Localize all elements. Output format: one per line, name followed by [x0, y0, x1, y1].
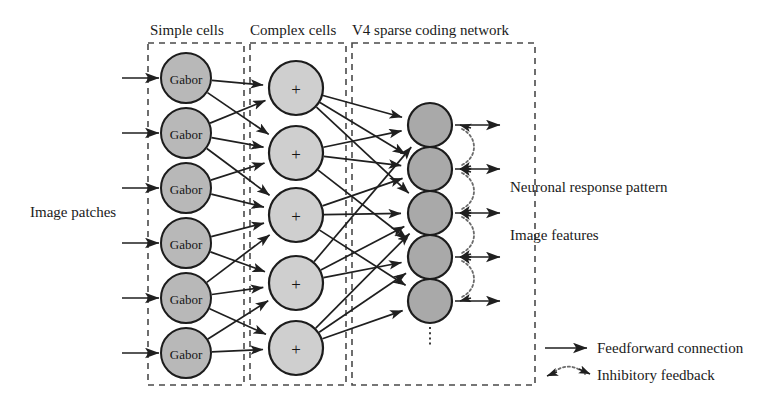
connection-simple5-complex3	[208, 301, 268, 339]
connection-simple2-complex1	[211, 163, 265, 180]
connection-complex2-v44	[320, 230, 406, 285]
connection-complex4-v43	[319, 273, 406, 332]
simple-cell-nodes: GaborGaborGaborGaborGaborGabor	[161, 53, 211, 378]
v4-circle-0	[408, 103, 452, 147]
v4-circle-1	[408, 147, 452, 191]
complex-cell-node-4: +	[269, 321, 323, 375]
simple-cell-node-0: Gabor	[161, 53, 211, 103]
v4-cell-nodes	[408, 103, 452, 345]
v4-sparse-coding-network-diagram: Simple cellsComplex cellsV4 sparse codin…	[0, 0, 782, 411]
gabor-label-4: Gabor	[170, 292, 203, 307]
connection-simple3-complex2	[211, 223, 264, 236]
legend-inhibitory-arrowhead-left	[547, 372, 557, 376]
legend: Feedforward connectionInhibitory feedbac…	[545, 340, 744, 383]
connection-complex2-v42	[324, 213, 401, 214]
complex-cell-node-0: +	[269, 61, 323, 115]
connection-simple4-complex2	[207, 235, 270, 282]
complex-plus-label-0: +	[291, 80, 301, 99]
legend-inhibitory: Inhibitory feedback	[547, 367, 715, 383]
simple-to-complex-connections	[207, 80, 270, 351]
connection-simple0-complex1	[207, 93, 268, 135]
connection-complex0-v41	[320, 102, 405, 154]
image-features-label: Image features	[510, 227, 599, 243]
connection-complex1-v41	[324, 156, 401, 165]
complex-to-v4-connections	[314, 95, 411, 338]
connection-simple1-complex1	[212, 138, 264, 147]
connection-complex3-v42	[321, 226, 404, 270]
complex-cell-node-1: +	[269, 126, 323, 180]
diagram-canvas: Simple cellsComplex cellsV4 sparse codin…	[0, 0, 782, 411]
v4-circle-2	[408, 191, 452, 235]
layer-title-complex-cells: Complex cells	[250, 22, 336, 38]
complex-cell-nodes: +++++	[269, 61, 323, 375]
gabor-label-1: Gabor	[170, 127, 203, 142]
connection-simple4-complex3	[212, 287, 264, 294]
legend-feedforward-label: Feedforward connection	[597, 340, 744, 356]
gabor-label-5: Gabor	[170, 347, 203, 362]
legend-inhibitory-arc	[551, 367, 585, 375]
v4-circle-4	[408, 279, 452, 323]
layer-title-v4-network: V4 sparse coding network	[352, 22, 510, 38]
inhibitory-arc-0	[462, 129, 474, 165]
connection-complex0-v40	[323, 95, 402, 117]
complex-plus-label-3: +	[291, 275, 301, 294]
complex-plus-label-4: +	[291, 340, 301, 359]
inhibitory-arc-1	[462, 173, 474, 209]
legend-feedforward: Feedforward connection	[545, 340, 744, 356]
layer-titles: Simple cellsComplex cellsV4 sparse codin…	[150, 22, 510, 38]
simple-cell-node-1: Gabor	[161, 108, 211, 158]
complex-plus-label-2: +	[291, 207, 301, 226]
connection-simple4-complex4	[210, 309, 266, 335]
image-patch-input-arrows	[122, 78, 159, 353]
inhibitory-arc-2	[462, 217, 474, 253]
complex-cell-node-2: +	[269, 188, 323, 242]
v4-circle-3	[408, 235, 452, 279]
gabor-label-2: Gabor	[170, 182, 203, 197]
complex-plus-label-1: +	[291, 145, 301, 164]
gabor-label-0: Gabor	[170, 72, 203, 87]
connection-simple1-complex0	[210, 100, 265, 123]
complex-cell-node-3: +	[269, 256, 323, 310]
gabor-label-3: Gabor	[170, 237, 203, 252]
simple-cell-node-5: Gabor	[161, 328, 211, 378]
connection-complex4-v44	[322, 311, 402, 339]
simple-cell-node-4: Gabor	[161, 273, 211, 323]
connection-simple5-complex4	[212, 349, 263, 351]
simple-cell-node-3: Gabor	[161, 218, 211, 268]
connection-simple0-complex0	[212, 80, 263, 85]
neuronal-response-label: Neuronal response pattern	[510, 179, 668, 195]
layer-title-simple-cells: Simple cells	[150, 22, 224, 38]
inhibitory-arc-3	[462, 261, 474, 297]
image-patches-label: Image patches	[30, 204, 116, 220]
simple-cell-node-2: Gabor	[161, 163, 211, 213]
connection-simple3-complex3	[210, 252, 265, 272]
connection-simple2-complex2	[211, 194, 264, 207]
legend-inhibitory-label: Inhibitory feedback	[597, 367, 715, 383]
